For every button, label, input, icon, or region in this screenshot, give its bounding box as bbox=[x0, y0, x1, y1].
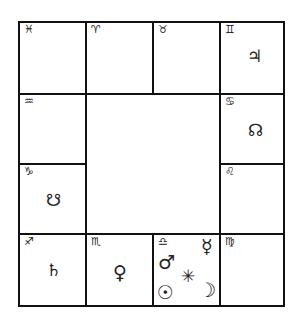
house-aries: ♈ bbox=[85, 21, 154, 95]
aries-sign-icon: ♈ bbox=[91, 24, 101, 36]
capricorn-sign-icon: ♑ bbox=[24, 166, 34, 178]
house-aquarius: ♒ bbox=[18, 93, 87, 165]
house-capricorn: ♑ ☋ bbox=[18, 163, 87, 235]
house-pisces: ♓ bbox=[18, 21, 87, 95]
house-libra: ♎ ☿ ♂ ✳ ☉ ☽ bbox=[152, 233, 221, 307]
sagittarius-sign-icon: ♐ bbox=[24, 236, 34, 248]
virgo-sign-icon: ♍ bbox=[225, 236, 235, 248]
house-scorpio: ♏ ♀ bbox=[85, 233, 154, 307]
saturn-icon: ♄ bbox=[46, 261, 61, 279]
mars-icon: ♂ bbox=[158, 253, 175, 271]
cancer-sign-icon: ♋ bbox=[225, 96, 235, 108]
mercury-icon: ☿ bbox=[201, 237, 213, 255]
house-taurus: ♉ bbox=[152, 21, 221, 95]
house-cancer: ♋ ☊ bbox=[219, 93, 285, 165]
moon-icon: ☽ bbox=[198, 281, 216, 299]
house-leo: ♌ bbox=[219, 163, 285, 235]
chart-center bbox=[85, 93, 221, 235]
house-gemini: ♊ ♃ bbox=[219, 21, 285, 95]
jupiter-icon: ♃ bbox=[247, 47, 262, 65]
venus-icon: ♀ bbox=[113, 263, 127, 281]
rasi-chart: ♓ ♈ ♉ ♊ ♃ ♒ ♋ ☊ ♑ ☋ ♌ ♐ ♄ ♏ ♀ ♎ ☿ ♂ ✳ ☉ … bbox=[18, 21, 285, 307]
rahu-icon: ☊ bbox=[248, 121, 263, 139]
pisces-sign-icon: ♓ bbox=[24, 24, 34, 36]
ascendant-icon: ✳ bbox=[181, 267, 195, 285]
gemini-sign-icon: ♊ bbox=[225, 24, 235, 36]
house-virgo: ♍ bbox=[219, 233, 285, 307]
libra-sign-icon: ♎ bbox=[158, 236, 168, 248]
taurus-sign-icon: ♉ bbox=[158, 24, 168, 36]
aquarius-sign-icon: ♒ bbox=[24, 96, 34, 108]
scorpio-sign-icon: ♏ bbox=[91, 236, 101, 248]
leo-sign-icon: ♌ bbox=[225, 166, 235, 178]
sun-icon: ☉ bbox=[157, 283, 174, 301]
house-sagittarius: ♐ ♄ bbox=[18, 233, 87, 307]
ketu-icon: ☋ bbox=[46, 191, 61, 209]
